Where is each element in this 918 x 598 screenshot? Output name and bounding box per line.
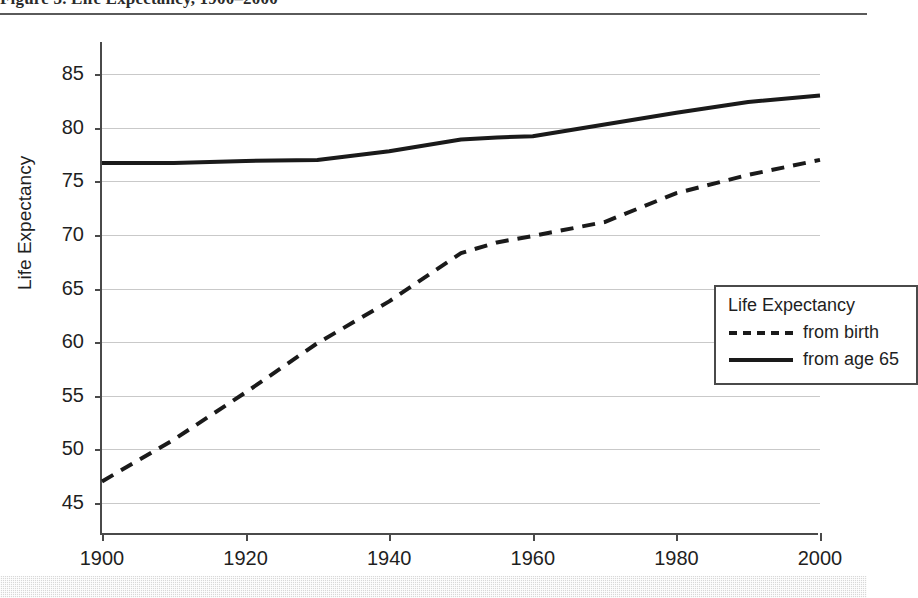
chart-legend: Life Expectancy from birth from age 65 bbox=[714, 285, 918, 385]
x-tick-label: 1980 bbox=[631, 547, 721, 570]
y-tick-mark bbox=[95, 235, 102, 237]
y-tick-label: 85 bbox=[38, 62, 84, 85]
series-layer bbox=[102, 42, 820, 535]
y-axis-label: Life Expectancy bbox=[14, 156, 36, 290]
plot-area: 455055606570758085 190019201940196019802… bbox=[100, 42, 818, 535]
legend-swatch-dashed bbox=[728, 328, 794, 338]
y-tick-label: 45 bbox=[38, 491, 84, 514]
y-tick-label: 80 bbox=[38, 116, 84, 139]
series-line-from-age-65 bbox=[102, 96, 820, 164]
legend-label-from-birth: from birth bbox=[803, 322, 879, 343]
legend-item-from-age-65: from age 65 bbox=[728, 346, 904, 373]
y-tick-mark bbox=[95, 503, 102, 505]
x-tick-label: 1920 bbox=[201, 547, 291, 570]
legend-swatch-solid bbox=[728, 355, 794, 365]
y-tick-mark bbox=[95, 396, 102, 398]
y-tick-label: 70 bbox=[38, 223, 84, 246]
y-tick-mark bbox=[95, 128, 102, 130]
figure-caption: Figure 3. Life Expectancy, 1900–2000 bbox=[0, 0, 867, 11]
line-chart: Life Expectancy 455055606570758085 19001… bbox=[0, 20, 867, 576]
y-tick-mark bbox=[95, 449, 102, 451]
y-tick-mark bbox=[95, 289, 102, 291]
x-tick-label: 2000 bbox=[775, 547, 865, 570]
x-tick-label: 1960 bbox=[488, 547, 578, 570]
y-tick-label: 55 bbox=[38, 384, 84, 407]
page-bottom-band bbox=[0, 576, 867, 598]
x-tick-mark bbox=[820, 533, 822, 541]
y-tick-label: 65 bbox=[38, 277, 84, 300]
legend-label-from-age-65: from age 65 bbox=[803, 349, 899, 370]
y-tick-label: 75 bbox=[38, 169, 84, 192]
y-tick-mark bbox=[95, 74, 102, 76]
x-tick-label: 1940 bbox=[344, 547, 434, 570]
legend-title: Life Expectancy bbox=[728, 295, 904, 316]
legend-item-from-birth: from birth bbox=[728, 319, 904, 346]
y-tick-mark bbox=[95, 342, 102, 344]
series-line-from-birth bbox=[102, 160, 820, 482]
y-tick-mark bbox=[95, 181, 102, 183]
x-tick-label: 1900 bbox=[57, 547, 147, 570]
y-tick-label: 50 bbox=[38, 437, 84, 460]
caption-rule bbox=[0, 13, 867, 15]
y-tick-label: 60 bbox=[38, 330, 84, 353]
